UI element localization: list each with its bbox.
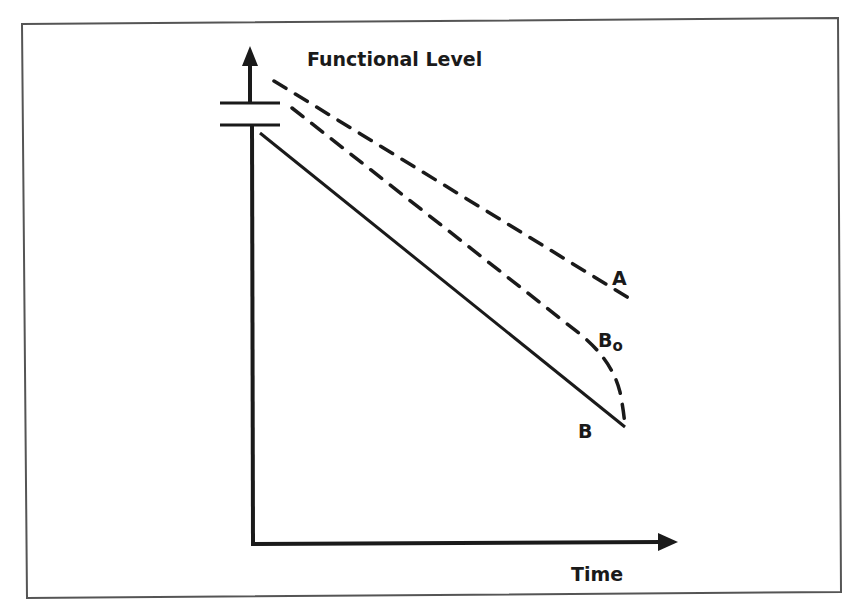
- x-axis-arrowhead: [658, 533, 678, 551]
- x-axis: [251, 533, 678, 551]
- functional-level-diagram: Functional Level Time A Bo B: [0, 0, 865, 615]
- label-a: A: [612, 267, 627, 289]
- line-bo: [292, 108, 625, 427]
- y-axis-arrowhead: [242, 46, 258, 66]
- y-axis-label: Functional Level: [307, 48, 482, 70]
- line-a: [274, 81, 632, 300]
- label-bo: Bo: [598, 329, 623, 355]
- label-b: B: [578, 420, 592, 442]
- x-axis-label: Time: [571, 563, 623, 585]
- y-axis: [220, 46, 280, 544]
- line-b: [260, 133, 625, 427]
- label-bo-main: B: [598, 329, 612, 351]
- label-bo-sub: o: [612, 337, 622, 355]
- figure-frame: [22, 18, 841, 598]
